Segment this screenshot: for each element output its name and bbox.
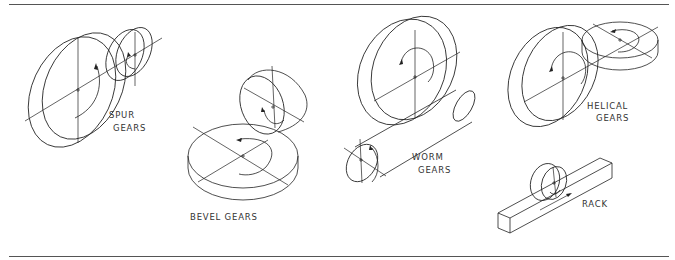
spur-label-line1: SPUR xyxy=(109,110,135,121)
gear-types-figure: SPUR GEARS BEVEL GEARS WORM GEARS HELICA… xyxy=(0,0,675,260)
spur-gears-drawing xyxy=(11,19,162,161)
bevel-gears-drawing xyxy=(188,66,307,200)
gear-drawing xyxy=(0,0,675,260)
spur-label-line2: GEARS xyxy=(113,123,146,134)
worm-gears-drawing xyxy=(340,2,480,187)
helical-label-line2: GEARS xyxy=(596,113,629,124)
bevel-label: BEVEL GEARS xyxy=(190,212,258,223)
helical-label-line1: HELICAL xyxy=(587,101,628,112)
rack-label: RACK xyxy=(582,199,608,210)
rack-drawing xyxy=(498,158,612,233)
bottom-rule xyxy=(9,256,669,257)
top-rule xyxy=(9,4,669,5)
helical-gears-drawing xyxy=(492,13,658,140)
worm-label-line1: WORM xyxy=(412,152,444,163)
worm-label-line2: GEARS xyxy=(418,165,451,176)
